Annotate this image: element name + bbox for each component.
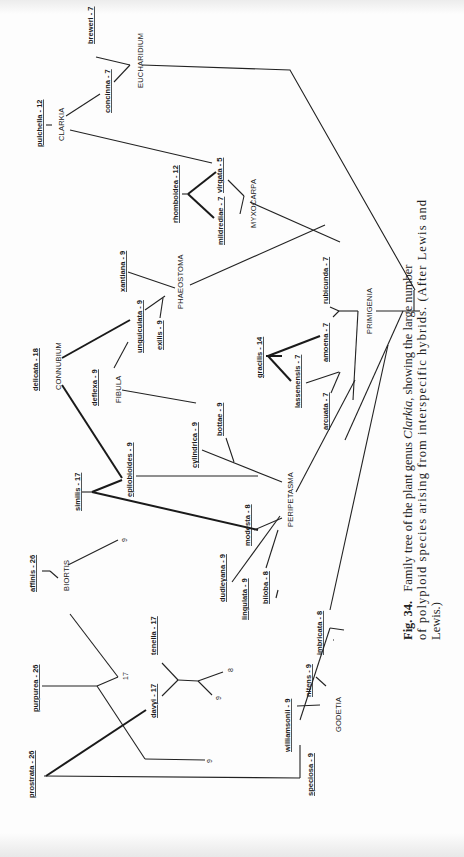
- caption-figure-label: Fig. 34.: [401, 601, 415, 640]
- figure-caption: Fig. 34. Family tree of the plant genus …: [401, 199, 443, 640]
- species-affinis: affinis - 26: [28, 555, 37, 592]
- book-page: breweri - 7 concinna - 7 pulchella - 12 …: [0, 0, 464, 857]
- species-virgata: virgata - 5: [215, 158, 224, 193]
- species-breweri: breweri - 7: [86, 6, 95, 44]
- species-rhomboidea: rhomboidea - 12: [171, 165, 180, 223]
- species-rubicunda: rubicunda - 7: [321, 257, 330, 304]
- species-concinna: concinna - 7: [103, 69, 112, 113]
- species-pulchella: pulchella - 12: [35, 99, 44, 147]
- section-peripetasma: PERIPETASMA: [286, 472, 295, 527]
- caption-genus-italic: Clarkia: [401, 401, 415, 439]
- section-biortis: BIORTIS: [62, 560, 71, 591]
- section-godetia: GODETIA: [334, 697, 343, 732]
- species-lassenensis: lassenensis - 7: [293, 355, 302, 408]
- section-myxocarpa: MYXOCARPA: [249, 179, 258, 228]
- species-arcuata: arcuata - 7: [321, 392, 330, 430]
- caption-line-1: Fig. 34. Family tree of the plant genus …: [401, 264, 415, 640]
- species-nitens: nitens - 9: [304, 664, 313, 697]
- species-delicata: delicata - 18: [31, 348, 40, 391]
- section-clarkia: CLARKIA: [57, 108, 66, 142]
- clarkia-family-tree: breweri - 7 concinna - 7 pulchella - 12 …: [0, 0, 464, 857]
- section-eucharidium: EUCHARIDIUM: [136, 33, 145, 88]
- species-dudleyana: dudleyana - 9: [218, 554, 227, 602]
- species-purpurea: purpurea - 26: [31, 664, 40, 712]
- species-lingulata: lingulata - 9: [240, 578, 249, 620]
- species-williamsonii: williamsonii - 9: [283, 699, 292, 753]
- number-purpurea-tip: 9: [206, 759, 213, 763]
- species-gracilis: gracilis - 14: [255, 336, 264, 378]
- number-biortis-tip: 9: [121, 538, 128, 542]
- caption-line-2: of polyploid species arising from inters…: [415, 199, 429, 640]
- species-similis: similis - 17: [73, 473, 82, 511]
- species-unguiculata: unguiculata - 9: [135, 300, 144, 353]
- section-connubium: CONNUBIUM: [54, 342, 63, 390]
- species-tenella: tenella - 17: [149, 616, 158, 655]
- species-cylindrica: cylindrica - 9: [190, 422, 199, 468]
- species-amoena: amoena - 7: [321, 323, 330, 362]
- number-tenella-tip-b: 9: [215, 696, 222, 700]
- caption-line-3: Lewis.): [429, 602, 443, 640]
- species-biloba: biloba - 8: [261, 571, 270, 604]
- species-bottae: bottae - 9: [215, 403, 224, 436]
- caption-line-1-a: Family tree of the plant genus: [401, 439, 415, 592]
- section-primigenia: PRIMIGENIA: [365, 288, 374, 334]
- species-exilis: exilis - 9: [155, 320, 164, 350]
- caption-line-1-b: , showing the large number: [401, 264, 415, 401]
- species-modesta: modesta - 8: [243, 504, 252, 546]
- species-mildrediae: mildrediae - 7: [216, 197, 225, 245]
- species-deflexa: deflexa - 9: [90, 369, 99, 406]
- species-xantiana: xantiana - 9: [118, 251, 127, 292]
- section-phaeostoma: PHAEOSTOMA: [176, 254, 185, 309]
- species-imbricata: imbricata - 8: [315, 611, 324, 655]
- section-fibula: FIBULA: [114, 376, 123, 403]
- species-speciosa: speciosa - 9: [306, 753, 315, 796]
- species-prostrata: prostrata - 26: [27, 750, 36, 798]
- species-epilobioides: epilobioides - 9: [125, 442, 134, 497]
- species-davyi: davyi - 17: [149, 684, 158, 718]
- number-purpurea-node: 17: [122, 672, 129, 680]
- number-tenella-tip-a: 8: [227, 668, 234, 672]
